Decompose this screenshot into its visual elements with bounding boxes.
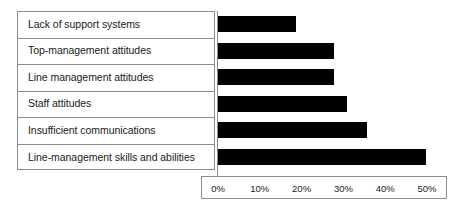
category-label: Line management attitudes bbox=[18, 72, 153, 84]
bar-row bbox=[217, 144, 447, 171]
category-label: Line-management skills and abilities bbox=[18, 152, 195, 164]
bar-row bbox=[217, 117, 447, 144]
category-label: Lack of support systems bbox=[18, 19, 140, 31]
bar-row bbox=[217, 91, 447, 118]
x-axis-tick: 10% bbox=[250, 182, 269, 193]
list-item: Line management attitudes bbox=[18, 65, 214, 92]
bar bbox=[217, 69, 334, 85]
bar bbox=[217, 149, 426, 165]
category-label: Staff attitudes bbox=[18, 98, 91, 110]
horizontal-bar-chart: Lack of support systems Top-management a… bbox=[0, 0, 461, 209]
x-axis: 0% 10% 20% 30% 40% 50% bbox=[201, 176, 447, 199]
list-item: Top-management attitudes bbox=[18, 39, 214, 66]
bar bbox=[217, 43, 334, 59]
bar bbox=[217, 96, 347, 112]
category-label-column: Lack of support systems Top-management a… bbox=[17, 11, 215, 170]
bar bbox=[217, 16, 296, 32]
category-label: Insufficient communications bbox=[18, 125, 155, 137]
list-item: Line-management skills and abilities bbox=[18, 145, 214, 172]
list-item: Lack of support systems bbox=[18, 12, 214, 39]
zero-baseline bbox=[217, 11, 218, 176]
plot-area bbox=[217, 11, 447, 170]
x-axis-tick: 30% bbox=[334, 182, 353, 193]
list-item: Staff attitudes bbox=[18, 92, 214, 119]
x-axis-tick: 20% bbox=[292, 182, 311, 193]
category-label: Top-management attitudes bbox=[18, 45, 151, 57]
bar-row bbox=[217, 64, 447, 91]
bar bbox=[217, 122, 367, 138]
x-axis-tick: 50% bbox=[417, 182, 436, 193]
bar-row bbox=[217, 11, 447, 38]
x-axis-tick: 40% bbox=[376, 182, 395, 193]
x-axis-tick: 0% bbox=[211, 182, 225, 193]
list-item: Insufficient communications bbox=[18, 118, 214, 145]
bar-row bbox=[217, 38, 447, 65]
